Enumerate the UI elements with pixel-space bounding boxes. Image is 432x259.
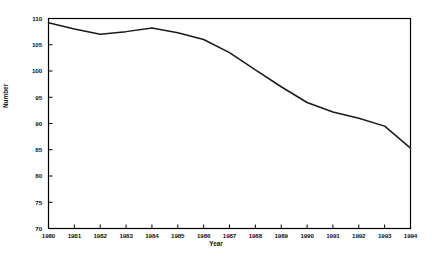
y-tick-label: 95 xyxy=(18,94,42,101)
x-tick-label: 1992 xyxy=(346,232,372,239)
x-tick-label: 1982 xyxy=(87,232,113,239)
x-tick-label: 1984 xyxy=(139,232,165,239)
y-tick-label: 80 xyxy=(18,172,42,179)
y-tick-label: 110 xyxy=(18,15,42,22)
plot-frame xyxy=(49,19,411,229)
plot-canvas xyxy=(0,0,432,259)
x-tick-label: 1987 xyxy=(217,232,243,239)
x-tick-label: 1993 xyxy=(372,232,398,239)
x-tick-label: 1989 xyxy=(268,232,294,239)
x-tick-label: 1990 xyxy=(294,232,320,239)
x-tick-label: 1980 xyxy=(36,232,62,239)
y-tick-label: 75 xyxy=(18,199,42,206)
x-tick-label: 1985 xyxy=(165,232,191,239)
y-tick-label: 85 xyxy=(18,146,42,153)
y-tick-label: 70 xyxy=(18,225,42,232)
y-tick-label: 105 xyxy=(18,41,42,48)
y-tick-label: 90 xyxy=(18,120,42,127)
y-tick-label: 100 xyxy=(18,67,42,74)
x-tick-label: 1981 xyxy=(61,232,87,239)
y-axis-title: Number xyxy=(2,48,9,108)
x-tick-label: 1991 xyxy=(320,232,346,239)
x-tick-label: 1983 xyxy=(113,232,139,239)
x-tick-label: 1986 xyxy=(191,232,217,239)
line-chart: 707580859095100105110 198019811982198319… xyxy=(0,0,432,259)
x-axis-title: Year xyxy=(0,240,432,247)
x-tick-label: 1994 xyxy=(398,232,424,239)
x-tick-label: 1988 xyxy=(242,232,268,239)
